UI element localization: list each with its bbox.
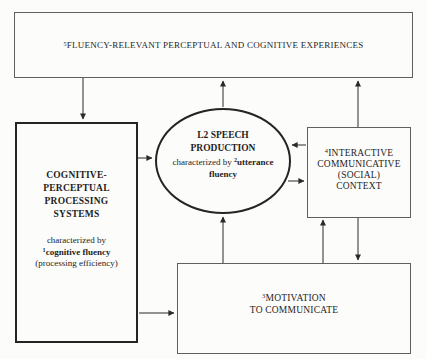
utterance-term: 2utterance [234, 157, 274, 167]
speech-production-title-line: PRODUCTION [191, 142, 256, 155]
utterance-text: utterance [237, 157, 273, 167]
context-label: 4INTERACTIVE COMMUNICATIVE (SOCIAL) CONT… [317, 148, 400, 192]
context-line: COMMUNICATIVE [317, 159, 400, 170]
characterized-by-text: characterized by [172, 157, 231, 167]
superscript-1: 1 [43, 247, 46, 253]
cognitive-fluency-text: cognitive fluency [46, 247, 111, 257]
context-line: CONTEXT [317, 181, 400, 192]
box-interactive-communicative-context: 4INTERACTIVE COMMUNICATIVE (SOCIAL) CONT… [307, 127, 411, 218]
fluency-model-diagram: 5FLUENCY-RELEVANT PERCEPTUAL AND COGNITI… [0, 0, 426, 359]
cognitive-fluency-term: 1cognitive fluency [35, 247, 118, 259]
motivation-line: TO COMMUNICATE [250, 304, 338, 316]
fluency-experiences-text: FLUENCY-RELEVANT PERCEPTUAL AND COGNITIV… [67, 40, 364, 50]
motivation-line: 3MOTIVATION [250, 292, 338, 304]
superscript-2: 2 [234, 157, 237, 163]
cognitive-systems-title-line: SYSTEMS [43, 208, 109, 221]
superscript-4: 4 [325, 147, 328, 154]
box-cognitive-perceptual-systems: COGNITIVE- PERCEPTUAL PROCESSING SYSTEMS… [15, 122, 138, 343]
cognitive-systems-title-line: PERCEPTUAL [43, 182, 109, 195]
cognitive-systems-title: COGNITIVE- PERCEPTUAL PROCESSING SYSTEMS [43, 169, 109, 221]
processing-efficiency-note: (processing efficiency) [35, 258, 118, 270]
speech-production-title: L2 SPEECH PRODUCTION [191, 129, 256, 155]
motivation-text: MOTIVATION [266, 293, 326, 303]
box-fluency-experiences: 5FLUENCY-RELEVANT PERCEPTUAL AND COGNITI… [14, 12, 413, 78]
utterance-fluency-line: characterized by 2utterance [160, 156, 286, 168]
fluency-text: fluency [160, 168, 286, 180]
context-text: INTERACTIVE [328, 148, 393, 158]
fluency-experiences-label: 5FLUENCY-RELEVANT PERCEPTUAL AND COGNITI… [64, 40, 364, 50]
box-motivation-to-communicate: 3MOTIVATION TO COMMUNICATE [177, 263, 411, 354]
context-line: 4INTERACTIVE [317, 148, 400, 159]
context-line: (SOCIAL) [317, 170, 400, 181]
cognitive-systems-title-line: COGNITIVE- [43, 169, 109, 182]
characterized-by-text: characterized by [35, 235, 118, 247]
cognitive-systems-subtitle: characterized by 1cognitive fluency (pro… [35, 235, 118, 270]
superscript-3: 3 [262, 292, 265, 299]
superscript-5: 5 [64, 41, 67, 47]
cognitive-systems-title-line: PROCESSING [43, 195, 109, 208]
speech-production-subtitle: characterized by 2utterance fluency [160, 156, 286, 180]
ellipse-l2-speech-production: L2 SPEECH PRODUCTION characterized by 2u… [155, 108, 291, 214]
speech-production-title-line: L2 SPEECH [191, 129, 256, 142]
motivation-label: 3MOTIVATION TO COMMUNICATE [250, 292, 338, 316]
